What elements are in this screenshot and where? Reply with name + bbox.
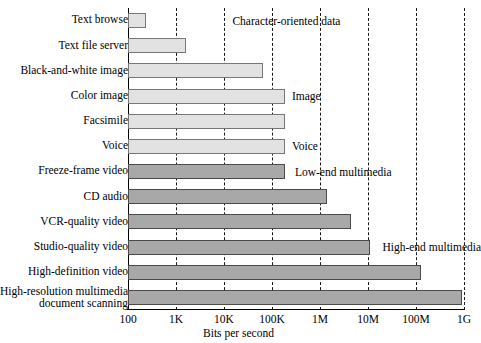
category-label: Facsimile	[83, 115, 128, 127]
category-label-line: Voice	[102, 140, 128, 152]
chart-annotation: High-end multimedia	[382, 241, 481, 253]
category-label: Black-and-white image	[20, 65, 128, 77]
category-label: CD audio	[84, 191, 128, 203]
category-label-line: Text file server	[59, 40, 128, 52]
gridline-1g	[464, 8, 465, 310]
category-label-line: Freeze-frame video	[38, 165, 128, 177]
category-label-line: Text browse	[72, 14, 128, 26]
category-label: High-definition video	[28, 266, 128, 278]
category-label: Voice	[102, 140, 128, 152]
category-label: Text browse	[72, 14, 128, 26]
bar	[128, 63, 263, 78]
x-tick-label: 10K	[214, 313, 234, 325]
bar	[128, 164, 285, 179]
category-label-line: Studio-quality video	[34, 241, 128, 253]
bar	[128, 139, 285, 154]
x-tick-label: 100K	[259, 313, 285, 325]
bar	[128, 290, 462, 305]
plot-area: Character-oriented dataImageVoiceLow-end…	[128, 8, 464, 310]
category-label-line: High-definition video	[28, 266, 128, 278]
x-tick-label: 1G	[457, 313, 471, 325]
bar	[128, 240, 370, 255]
chart-annotation: Low-end multimedia	[295, 166, 392, 178]
x-tick-label: 1M	[312, 313, 328, 325]
category-label-line: document scanning	[0, 297, 128, 310]
bar	[128, 114, 285, 129]
category-label-line: Facsimile	[83, 115, 128, 127]
category-label-line: Black-and-white image	[20, 65, 128, 77]
bar	[128, 13, 146, 28]
chart-annotation: Character-oriented data	[232, 15, 340, 27]
category-label: Freeze-frame video	[38, 165, 128, 177]
category-label-line: CD audio	[84, 191, 128, 203]
category-label: Color image	[71, 90, 128, 102]
category-label: Text file server	[59, 40, 128, 52]
category-label-line: VCR-quality video	[40, 216, 128, 228]
category-label: Studio-quality video	[34, 241, 128, 253]
chart-annotation: Image	[292, 90, 321, 102]
bar	[128, 189, 327, 204]
x-tick-label: 100M	[402, 313, 429, 325]
category-label-line: Color image	[71, 90, 128, 102]
x-tick-label: 10M	[357, 313, 379, 325]
x-tick-label: 1K	[169, 313, 183, 325]
x-axis-title: Bits per second	[0, 327, 477, 339]
category-label: VCR-quality video	[40, 216, 128, 228]
x-axis-line	[127, 309, 465, 310]
category-label-line: High-resolution multimedia	[0, 285, 128, 298]
chart-annotation: Voice	[292, 140, 318, 152]
bar	[128, 38, 186, 53]
bar	[128, 214, 351, 229]
bar	[128, 89, 285, 104]
x-tick-label: 100	[119, 313, 136, 325]
category-label: High-resolution multimediadocument scann…	[0, 285, 128, 310]
bar	[128, 265, 421, 280]
